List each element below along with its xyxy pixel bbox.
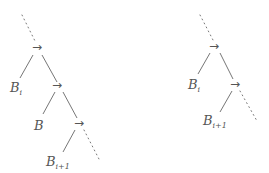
dotted-edge	[240, 91, 257, 121]
leaf-label: Bi+1	[202, 113, 227, 130]
right-tree	[198, 15, 257, 121]
dotted-edge	[22, 15, 35, 41]
leaf-label: Bi	[187, 77, 201, 94]
arrow-node: →	[32, 40, 42, 54]
leaf-label: Bi+1	[45, 154, 70, 171]
tree-diagrams: → → → Bi B Bi+1 → → Bi Bi+1	[0, 0, 269, 173]
arrow-node: →	[74, 116, 84, 130]
edge	[20, 55, 33, 78]
edge	[43, 92, 55, 114]
edge	[63, 130, 75, 152]
arrow-node: →	[52, 78, 62, 92]
leaf-label: Bi	[9, 80, 23, 97]
edge	[220, 53, 233, 79]
arrow-node: →	[230, 77, 240, 91]
dotted-edge	[84, 130, 100, 161]
edge	[63, 92, 77, 118]
left-tree-labels: → → → Bi B Bi+1	[9, 40, 84, 171]
leaf-label: B	[33, 118, 44, 133]
dotted-edge	[200, 15, 213, 40]
edge	[198, 53, 210, 74]
right-tree-labels: → → Bi Bi+1	[187, 39, 240, 130]
edge	[220, 91, 232, 112]
arrow-node: →	[209, 39, 219, 53]
